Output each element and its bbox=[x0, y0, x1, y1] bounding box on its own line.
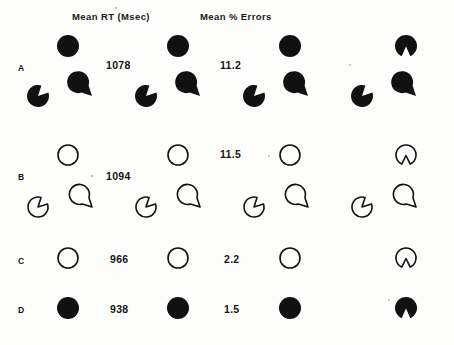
stimulus-notched-circle-c bbox=[392, 244, 420, 272]
stimulus-notched-circle-d bbox=[392, 294, 420, 322]
row-label-c: C bbox=[18, 256, 24, 266]
figure-canvas: Mean RT (Msec)Mean % Errors A107811.2B10… bbox=[0, 0, 454, 345]
mean-rt-value-b: 1094 bbox=[106, 170, 131, 182]
mean-pct-errors-value-d: 1.5 bbox=[224, 303, 240, 315]
stimulus-notched-circle-a bbox=[392, 32, 420, 60]
stimulus-circle-c-2 bbox=[165, 245, 191, 271]
stimulus-circle-c-3 bbox=[277, 245, 303, 271]
stimulus-pacman-b-7 bbox=[349, 194, 375, 220]
stimulus-circle-b-1 bbox=[55, 142, 81, 168]
stimulus-pacman-a-7 bbox=[349, 83, 375, 109]
stimulus-pacman-b-5 bbox=[241, 194, 267, 220]
stimulus-pacman-b-8 bbox=[403, 194, 429, 220]
stimulus-circle-a-1 bbox=[55, 33, 81, 59]
stimulus-pacman-a-8 bbox=[403, 83, 429, 109]
stimulus-pacman-a-6 bbox=[295, 83, 321, 109]
scan-speck-2 bbox=[349, 64, 351, 66]
stimulus-pacman-a-3 bbox=[133, 83, 159, 109]
stimulus-circle-d-1 bbox=[55, 295, 81, 321]
stimulus-pacman-a-2 bbox=[79, 83, 105, 109]
stimulus-pacman-b-2 bbox=[79, 194, 105, 220]
stimulus-pacman-b-3 bbox=[133, 194, 159, 220]
stimulus-notched-circle-b bbox=[392, 141, 420, 169]
mean-rt-value-a: 1078 bbox=[106, 59, 131, 71]
mean-rt-value-d: 938 bbox=[110, 303, 128, 315]
scan-speck-1 bbox=[115, 7, 117, 9]
scan-speck-3 bbox=[268, 155, 270, 157]
scan-speck-5 bbox=[388, 299, 390, 301]
stimulus-circle-c-1 bbox=[55, 245, 81, 271]
stimulus-circle-a-3 bbox=[277, 33, 303, 59]
stimulus-pacman-b-4 bbox=[187, 194, 213, 220]
mean-pct-errors-value-b: 11.5 bbox=[220, 148, 241, 160]
stimulus-pacman-a-5 bbox=[241, 83, 267, 109]
stimulus-circle-b-2 bbox=[165, 142, 191, 168]
scan-speck-4 bbox=[91, 175, 93, 177]
stimulus-pacman-b-1 bbox=[25, 194, 51, 220]
stimulus-circle-d-3 bbox=[277, 295, 303, 321]
row-label-d: D bbox=[18, 305, 24, 315]
header-mean-rt: Mean RT (Msec) bbox=[72, 11, 150, 22]
stimulus-circle-b-3 bbox=[277, 142, 303, 168]
stimulus-circle-a-2 bbox=[165, 33, 191, 59]
row-label-a: A bbox=[18, 63, 24, 73]
stimulus-pacman-a-1 bbox=[25, 83, 51, 109]
stimulus-pacman-b-6 bbox=[295, 194, 321, 220]
mean-rt-value-c: 966 bbox=[110, 253, 128, 265]
stimulus-pacman-a-4 bbox=[187, 83, 213, 109]
header-mean-pct-errors: Mean % Errors bbox=[200, 11, 272, 22]
stimulus-circle-d-2 bbox=[165, 295, 191, 321]
mean-pct-errors-value-a: 11.2 bbox=[220, 59, 241, 71]
row-label-b: B bbox=[18, 172, 24, 182]
mean-pct-errors-value-c: 2.2 bbox=[224, 253, 240, 265]
